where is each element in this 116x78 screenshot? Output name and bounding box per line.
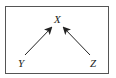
node-y: Y <box>18 58 24 69</box>
edge-z-to-x <box>64 28 90 55</box>
node-x: X <box>54 14 61 25</box>
node-z: Z <box>90 58 96 69</box>
edge-y-to-x <box>25 28 51 55</box>
